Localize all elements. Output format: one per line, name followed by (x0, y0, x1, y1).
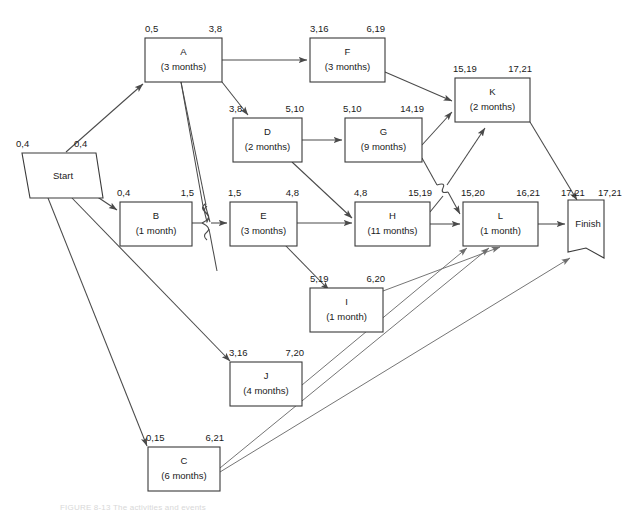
node-j[interactable]: J (4 months) 3,16 7,20 (229, 347, 304, 406)
d-duration: (2 months) (245, 141, 290, 152)
e-late-label: 4,8 (286, 187, 299, 198)
node-f[interactable]: F (3 months) 3,16 6,19 (310, 23, 385, 82)
i-late-label: 6,20 (367, 273, 386, 284)
g-label: G (380, 126, 387, 137)
f-duration: (3 months) (325, 61, 370, 72)
edge-b-e-hop2 (202, 223, 209, 240)
start-label: Start (53, 170, 73, 181)
b-early-label: 0,4 (117, 187, 130, 198)
h-label: H (389, 210, 396, 221)
figure-caption: FIGURE 8-13 The activities and events (60, 503, 206, 512)
finish-shape (568, 200, 604, 258)
a-label: A (180, 46, 187, 57)
edge-h-k (430, 196, 443, 212)
i-duration: (1 month) (326, 311, 367, 322)
k-duration: (2 months) (470, 101, 515, 112)
c-label: C (181, 455, 188, 466)
e-duration: (3 months) (241, 225, 286, 236)
edge-g-l-tail (448, 192, 460, 214)
b-label: B (153, 210, 159, 221)
node-g[interactable]: G (9 months) 5,10 14,19 (343, 103, 424, 162)
a-duration: (3 months) (161, 61, 206, 72)
c-duration: (6 months) (161, 470, 206, 481)
g-early-label: 5,10 (343, 103, 362, 114)
edge-h-k-tail (447, 128, 485, 185)
node-k[interactable]: K (2 months) 15,19 17,21 (453, 63, 532, 122)
finish-label: Finish (575, 218, 600, 229)
f-late-label: 6,19 (367, 23, 386, 34)
finish-early-label: 17,21 (561, 187, 585, 198)
d-label: D (264, 126, 271, 137)
edge-c-l (220, 248, 489, 468)
k-label: K (489, 86, 496, 97)
f-early-label: 3,16 (310, 23, 329, 34)
l-late-label: 16,21 (516, 187, 540, 198)
edge-g-l (422, 158, 437, 185)
e-label: E (260, 210, 266, 221)
j-late-label: 7,20 (286, 347, 305, 358)
l-early-label: 15,20 (461, 187, 485, 198)
b-late-label: 1,5 (181, 187, 194, 198)
node-finish[interactable]: Finish 17,21 17,21 (561, 187, 622, 258)
start-late-label: 0,4 (74, 138, 87, 149)
node-a[interactable]: A (3 months) 0,5 3,8 (145, 23, 222, 82)
d-late-label: 5,10 (286, 103, 305, 114)
d-early-label: 3,8 (229, 103, 242, 114)
edge-g-l-hop (437, 184, 448, 193)
j-duration: (4 months) (243, 385, 288, 396)
node-d[interactable]: D (2 months) 3,8 5,10 (229, 103, 304, 162)
node-c[interactable]: C (6 months) 0,15 6,21 (146, 432, 224, 491)
node-start[interactable]: Start 0,4 0,4 (16, 138, 103, 198)
i-early-label: 5,19 (310, 273, 329, 284)
edge-f-k (385, 72, 452, 101)
f-label: F (345, 46, 351, 57)
edge-d-h (292, 162, 352, 218)
b-duration: (1 month) (136, 225, 177, 236)
g-duration: (9 months) (361, 141, 406, 152)
a-late-label: 3,8 (209, 23, 222, 34)
finish-late-label: 17,21 (598, 187, 622, 198)
edge-a-e-tail (209, 229, 217, 271)
node-e[interactable]: E (3 months) 1,5 4,8 (228, 187, 299, 246)
e-early-label: 1,5 (228, 187, 241, 198)
c-late-label: 6,21 (206, 432, 225, 443)
k-late-label: 17,21 (508, 63, 532, 74)
h-early-label: 4,8 (354, 187, 367, 198)
j-label: J (264, 370, 269, 381)
node-i[interactable]: I (1 month) 5,19 6,20 (310, 273, 385, 332)
a-early-label: 0,5 (145, 23, 158, 34)
l-label: L (498, 210, 503, 221)
start-early-label: 0,4 (16, 138, 29, 149)
network-diagram-page: Start 0,4 0,4 A (3 months) 0,5 3,8 F (3 … (0, 0, 637, 514)
c-early-label: 0,15 (146, 432, 165, 443)
j-early-label: 3,16 (229, 347, 248, 358)
edge-g-k (422, 112, 452, 145)
node-l[interactable]: L (1 month) 15,20 16,21 (461, 187, 540, 246)
l-duration: (1 month) (480, 225, 521, 236)
node-b[interactable]: B (1 month) 0,4 1,5 (117, 187, 194, 246)
k-early-label: 15,19 (453, 63, 477, 74)
i-label: I (345, 296, 348, 307)
pert-network-diagram: Start 0,4 0,4 A (3 months) 0,5 3,8 F (3 … (0, 0, 637, 514)
h-duration: (11 months) (368, 225, 418, 236)
node-h[interactable]: H (11 months) 4,8 15,19 (354, 187, 432, 246)
g-late-label: 14,19 (400, 103, 424, 114)
h-late-label: 15,19 (408, 187, 432, 198)
